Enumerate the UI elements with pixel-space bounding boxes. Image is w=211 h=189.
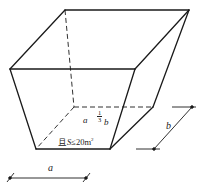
label-dimension-a: a [48,163,53,173]
label-dimension-b: b [166,121,171,131]
side-edge-back-right [153,10,189,107]
top-edge-right [135,10,189,69]
area-superscript: 2 [91,137,94,142]
hidden-edge-back-vertical [65,10,74,107]
pit-frustum-diagram [0,0,211,189]
label-b-inner: b [104,118,109,127]
area-prefix: 且 [58,137,67,147]
label-a-inner: a [83,116,88,125]
label-one-third: 1 3 [97,110,102,123]
dimension-a [7,173,90,182]
area-relation: ≤20m [71,137,91,147]
label-area-constraint: 且S≤20m2 [58,137,94,146]
side-edge-front-left [10,69,36,149]
fraction-denominator: 3 [97,117,102,123]
top-edge-left [10,10,65,69]
